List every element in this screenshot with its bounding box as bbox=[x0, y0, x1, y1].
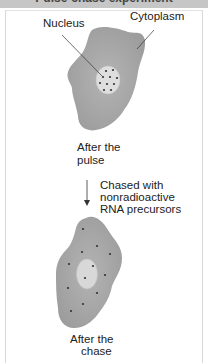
chase-label-line3: RNA precursors bbox=[100, 203, 181, 216]
cell-after-pulse bbox=[62, 27, 154, 130]
cell-after-chase bbox=[56, 217, 122, 328]
after-pulse-label-line1: After the bbox=[77, 141, 120, 154]
nucleus-label: Nucleus bbox=[43, 17, 85, 30]
after-chase-label-line2: chase bbox=[81, 345, 112, 358]
nucleus-shape bbox=[96, 66, 120, 94]
down-arrow-icon bbox=[84, 180, 90, 206]
after-pulse-label-line2: pulse bbox=[77, 154, 105, 167]
nucleus-shape bbox=[77, 259, 98, 289]
cytoplasm-label: Cytoplasm bbox=[130, 10, 184, 23]
